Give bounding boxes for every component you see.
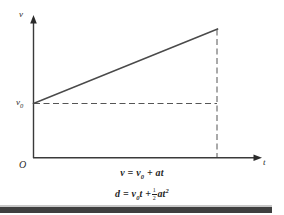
equation-velocity: v = v0 + at [0,168,284,181]
equation-displacement: d = v0t +12at2 [0,188,284,202]
y-intercept-label: v0 [16,98,23,109]
eq2-equals: = [123,188,129,199]
x-axis [33,155,262,162]
equation-block: v = v0 + at d = v0t +12at2 [0,168,284,201]
x-axis-label: t [263,158,266,167]
figure-canvas: v t O v0 v = v0 + at d = v0t +12at2 [0,0,284,215]
velocity-line [34,29,218,104]
fraction-denominator: 2 [152,195,157,201]
eq1-equals: = [128,167,134,178]
eq1-plus: + [147,167,153,178]
bottom-bar [0,207,272,213]
y-axis-arrowhead [30,15,37,24]
v0-subscript: 0 [20,102,23,109]
eq1-term2: at [156,167,164,178]
eq1-lhs: v [120,167,125,178]
eq2-term2: at [157,188,165,199]
eq2-term2-exponent: 2 [166,187,169,194]
one-half-fraction: 12 [152,187,157,201]
eq2-lhs: d [115,188,120,199]
y-axis-label: v [19,10,23,19]
x-axis-arrowhead [254,155,263,162]
eq1-term1-subscript: 0 [141,173,144,180]
y-axis [30,15,37,158]
eq2-term1-variable: t [140,188,143,199]
fraction-numerator: 1 [152,187,157,194]
eq2-plus: + [145,188,151,199]
